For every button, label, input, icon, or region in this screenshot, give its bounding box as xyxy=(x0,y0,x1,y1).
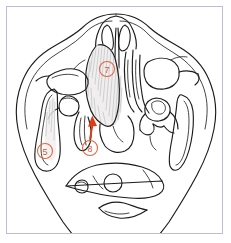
maxillary-sinus-right xyxy=(144,57,199,90)
occipital-bone xyxy=(66,163,164,198)
annotation-marker-8[interactable]: 8 xyxy=(83,141,98,156)
ethmoid-air-cells-right xyxy=(125,50,150,113)
skull-base-right xyxy=(140,124,174,150)
mastoid-air-cells-right xyxy=(169,95,193,171)
annotation-marker-5-label: 5 xyxy=(42,147,47,157)
maxillary-sinus-left xyxy=(36,60,88,119)
figure-container: 7 5 8 xyxy=(0,0,231,243)
mastoid-air-cells-left xyxy=(35,89,61,171)
anatomical-line-drawing: 7 5 8 xyxy=(0,0,231,243)
annotation-marker-7-label: 7 xyxy=(104,65,109,75)
posterior-soft-tissue xyxy=(99,202,147,218)
mandibular-condyle-right xyxy=(140,98,178,130)
annotation-marker-8-label: 8 xyxy=(87,144,92,154)
